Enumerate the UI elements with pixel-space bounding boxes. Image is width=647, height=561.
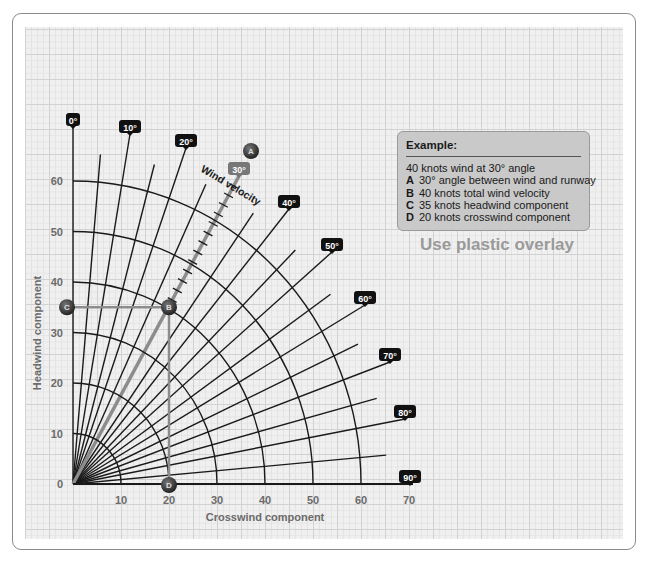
- angle-label-pointer: [70, 126, 76, 129]
- angle-label-5: 50°: [321, 238, 343, 254]
- point-marker-label: B: [166, 303, 172, 312]
- angle-label-2: 20°: [175, 134, 197, 150]
- x-tick-label: 60: [355, 494, 367, 506]
- example-title: Example:: [406, 137, 581, 155]
- example-text: 40 knots total wind velocity: [419, 187, 550, 199]
- point-c: C: [59, 299, 75, 315]
- angle-label-text: 80°: [398, 408, 412, 418]
- point-a: A: [243, 143, 259, 159]
- angle-labels: 0°10°20°30°40°50°60°70°80°90°: [66, 113, 421, 486]
- point-marker-label: C: [64, 303, 70, 312]
- x-axis-title: Crosswind component: [206, 511, 325, 523]
- example-legend: Example: 40 knots wind at 30° angle A30°…: [397, 131, 590, 231]
- angle-label-8: 80°: [394, 405, 416, 421]
- angle-label-4: 40°: [278, 195, 300, 211]
- y-tick-label: 0: [57, 478, 63, 490]
- radial-line-5: [73, 154, 100, 484]
- point-marker-label: D: [166, 481, 172, 490]
- point-b: B: [161, 299, 177, 315]
- example-key: B: [406, 187, 419, 199]
- example-text: 35 knots headwind component: [419, 199, 568, 211]
- angle-label-1: 10°: [119, 120, 141, 136]
- angle-label-text: 60°: [358, 294, 372, 304]
- angle-label-text: 0°: [69, 116, 78, 126]
- x-tick-label: 30: [211, 494, 223, 506]
- y-axis-title: Headwind component: [31, 276, 43, 391]
- example-item-a: A30° angle between wind and runway: [406, 174, 581, 186]
- point-marker-label: A: [248, 147, 254, 156]
- point-d: D: [161, 477, 177, 493]
- x-tick-label: 20: [163, 494, 175, 506]
- example-key: D: [406, 211, 419, 223]
- angle-label-text: 20°: [179, 137, 193, 147]
- angle-radial-lines: [73, 127, 410, 484]
- radial-line-55: [73, 294, 331, 484]
- radial-line-15: [73, 164, 154, 484]
- example-summary: 40 knots wind at 30° angle: [406, 162, 581, 174]
- overlay-note: Use plastic overlay: [420, 235, 574, 255]
- angle-label-7: 70°: [379, 348, 401, 364]
- angle-label-text: 10°: [123, 123, 137, 133]
- example-item-d: D20 knots crosswind component: [406, 211, 581, 223]
- radial-line-80: [73, 419, 405, 484]
- y-tick-label: 30: [51, 327, 63, 339]
- angle-label-text: 30°: [232, 165, 246, 175]
- angle-label-text: 70°: [383, 351, 397, 361]
- radial-line-85: [73, 455, 386, 484]
- x-tick-label: 40: [259, 494, 271, 506]
- angle-label-6: 60°: [354, 291, 376, 307]
- example-item-c: C35 knots headwind component: [406, 199, 581, 211]
- angle-label-text: 50°: [325, 241, 339, 251]
- example-key: A: [406, 174, 419, 186]
- crosswind-chart: 0°10°20°30°40°50°60°70°80°90° 1020304050…: [0, 0, 647, 561]
- angle-label-pointer: [183, 147, 189, 150]
- y-tick-label: 10: [51, 428, 63, 440]
- radial-line-35: [73, 213, 253, 484]
- y-tick-label: 40: [51, 276, 63, 288]
- example-text: 20 knots crosswind component: [419, 211, 570, 223]
- y-tick-label: 60: [51, 175, 63, 187]
- angle-label-text: 90°: [403, 473, 417, 483]
- example-key: C: [406, 199, 419, 211]
- y-tick-label: 20: [51, 377, 63, 389]
- radial-line-75: [73, 398, 377, 484]
- y-tick-label: 50: [51, 226, 63, 238]
- example-text: 30° angle between wind and runway: [419, 174, 596, 186]
- angle-label-pointer: [127, 133, 133, 136]
- x-tick-label: 70: [403, 494, 415, 506]
- angle-label-text: 40°: [282, 198, 296, 208]
- example-item-b: B40 knots total wind velocity: [406, 187, 581, 199]
- x-tick-label: 10: [115, 494, 127, 506]
- angle-label-3: 30°: [228, 162, 250, 178]
- x-tick-label: 50: [307, 494, 319, 506]
- example-divider: [406, 156, 581, 157]
- angle-label-0: 0°: [66, 113, 80, 129]
